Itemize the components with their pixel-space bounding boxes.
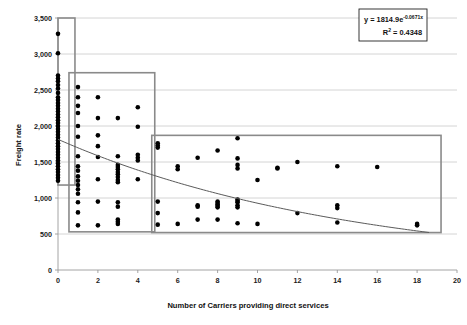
y-tick-label: 2,500 bbox=[34, 86, 52, 95]
data-point bbox=[56, 51, 61, 56]
data-point bbox=[116, 180, 121, 185]
data-point bbox=[155, 199, 160, 204]
data-point bbox=[116, 222, 121, 227]
cluster-box-3 bbox=[152, 135, 441, 232]
data-point bbox=[76, 111, 81, 116]
x-tick-label: 12 bbox=[293, 276, 301, 285]
data-point bbox=[335, 164, 340, 169]
cluster-box-1 bbox=[58, 18, 75, 185]
data-point bbox=[76, 187, 81, 192]
data-point bbox=[255, 222, 260, 227]
data-point bbox=[96, 133, 101, 138]
data-point bbox=[136, 177, 141, 182]
data-point bbox=[215, 205, 220, 210]
data-point bbox=[275, 165, 280, 170]
y-tick-label: 3,500 bbox=[34, 14, 52, 23]
data-point bbox=[76, 200, 81, 205]
chart-container: 05001,0001,5002,0002,5003,0003,500 02468… bbox=[0, 0, 467, 325]
data-point bbox=[56, 91, 61, 96]
x-tick-label: 10 bbox=[254, 276, 262, 285]
cluster-box-2 bbox=[69, 73, 155, 232]
data-point bbox=[215, 148, 220, 153]
y-tick-label: 2,000 bbox=[34, 122, 52, 131]
data-point bbox=[335, 206, 340, 211]
data-point bbox=[195, 155, 200, 160]
data-point bbox=[155, 211, 160, 216]
x-tick-label: 8 bbox=[216, 276, 220, 285]
data-point bbox=[175, 222, 180, 227]
data-point bbox=[215, 217, 220, 222]
x-tick-label: 0 bbox=[56, 276, 60, 285]
data-point bbox=[76, 85, 81, 90]
data-point bbox=[235, 136, 240, 141]
data-point bbox=[56, 32, 61, 37]
data-point bbox=[195, 217, 200, 222]
y-tick-label: 1,500 bbox=[34, 158, 52, 167]
exponential-trendline bbox=[58, 139, 429, 232]
data-point bbox=[56, 86, 61, 91]
y-axis-title: Freight rate bbox=[14, 124, 23, 166]
y-tick-label: 3,000 bbox=[34, 50, 52, 59]
x-tick-label: 20 bbox=[453, 276, 461, 285]
data-point bbox=[175, 167, 180, 172]
data-point bbox=[255, 178, 260, 183]
data-point bbox=[155, 145, 160, 150]
data-point bbox=[76, 174, 81, 179]
data-point bbox=[76, 104, 81, 109]
data-point bbox=[76, 164, 81, 169]
data-point bbox=[96, 95, 101, 100]
data-point bbox=[116, 200, 121, 205]
x-tick-label: 16 bbox=[373, 276, 381, 285]
data-point bbox=[76, 210, 81, 215]
data-point bbox=[335, 220, 340, 225]
x-tick-label: 6 bbox=[176, 276, 180, 285]
y-tick-label: 0 bbox=[48, 266, 52, 275]
data-point bbox=[76, 178, 81, 183]
y-tick-label: 1,000 bbox=[34, 194, 52, 203]
data-point bbox=[235, 156, 240, 161]
data-point bbox=[96, 177, 101, 182]
data-point bbox=[116, 204, 121, 209]
data-point bbox=[76, 154, 81, 159]
data-point bbox=[235, 221, 240, 226]
y-tick-label: 500 bbox=[40, 230, 52, 239]
data-point bbox=[235, 205, 240, 210]
x-axis-title: Number of Carriers providing direct serv… bbox=[167, 301, 328, 310]
data-point bbox=[96, 199, 101, 204]
data-point bbox=[235, 166, 240, 171]
data-point bbox=[116, 154, 121, 159]
y-axis-tick-labels: 05001,0001,5002,0002,5003,0003,500 bbox=[34, 14, 52, 275]
trendline-equation-box: y = 1814.9e-0.0671x R2 = 0.4348 bbox=[359, 9, 427, 41]
data-point bbox=[76, 95, 81, 100]
x-axis-tick-labels: 02468101214161820 bbox=[56, 276, 461, 285]
data-point bbox=[76, 168, 81, 173]
axes bbox=[55, 18, 457, 273]
data-point bbox=[415, 223, 420, 228]
scatter-plot: 05001,0001,5002,0002,5003,0003,500 02468… bbox=[0, 0, 467, 325]
cluster-boxes bbox=[58, 18, 441, 233]
x-tick-label: 18 bbox=[413, 276, 421, 285]
data-point bbox=[76, 223, 81, 228]
data-point bbox=[195, 204, 200, 209]
x-tick-label: 4 bbox=[136, 276, 140, 285]
data-point bbox=[56, 178, 61, 183]
trendline bbox=[58, 139, 429, 232]
data-point bbox=[295, 160, 300, 165]
data-point bbox=[136, 158, 141, 163]
data-point bbox=[96, 144, 101, 149]
data-point bbox=[76, 124, 81, 129]
data-point bbox=[96, 223, 101, 228]
data-point bbox=[375, 165, 380, 170]
data-point bbox=[136, 105, 141, 110]
data-point bbox=[136, 124, 141, 129]
data-point bbox=[155, 222, 160, 227]
data-point bbox=[96, 116, 101, 121]
data-point bbox=[76, 135, 81, 140]
data-point bbox=[76, 191, 81, 196]
x-tick-label: 2 bbox=[96, 276, 100, 285]
data-point bbox=[116, 116, 121, 121]
x-tick-label: 14 bbox=[333, 276, 341, 285]
data-point bbox=[76, 183, 81, 188]
